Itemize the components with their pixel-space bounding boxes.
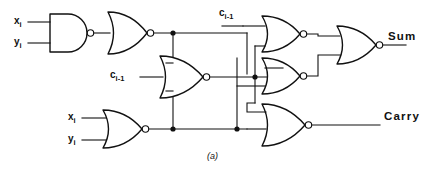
input-label-y-bottom: yi bbox=[68, 134, 76, 147]
output-label-carry: Carry bbox=[384, 111, 420, 123]
wire-lower-to-sum bbox=[307, 55, 340, 76]
output-label-sum: Sum bbox=[388, 31, 417, 43]
gate-nor-sum-output bbox=[337, 26, 383, 64]
input-label-x-top: xi bbox=[14, 16, 22, 29]
wire-upper-to-sum bbox=[307, 34, 340, 36]
gate-nor-xy-bottom bbox=[103, 110, 149, 148]
figure-caption: (a) bbox=[207, 152, 218, 161]
input-label-carry-mid: ci-1 bbox=[110, 70, 124, 83]
gate-nor-sum-lower bbox=[262, 58, 307, 94]
input-label-x-bottom: xi bbox=[68, 112, 76, 125]
junction-bottom-rail-a bbox=[170, 126, 175, 131]
figure-container: xi yi ci-1 ci-1 xi yi Sum Carry (a) bbox=[0, 0, 434, 174]
gate-nand-xy bbox=[50, 14, 94, 52]
input-label-y-top: yi bbox=[14, 37, 22, 50]
gate-nor-sum-upper bbox=[262, 16, 307, 52]
circuit-diagram bbox=[0, 0, 434, 174]
input-label-carry-top: ci-1 bbox=[219, 8, 233, 21]
gate-nor-middle bbox=[160, 56, 210, 98]
gate-nor-carry bbox=[262, 104, 312, 146]
gate-nor-inverter-top bbox=[108, 12, 154, 54]
